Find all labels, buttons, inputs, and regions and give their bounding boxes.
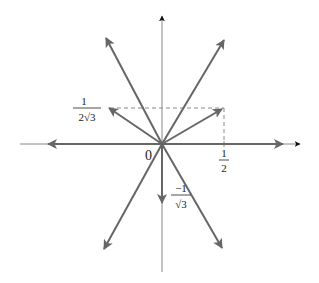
down-label-numerator: −1 — [175, 182, 187, 194]
down-label-denominator: √3 — [175, 198, 187, 210]
vector-short-upper-left — [109, 108, 162, 144]
y-value-label: 1 2√3 — [73, 95, 101, 123]
y-label-denominator: 2√3 — [78, 111, 96, 123]
vector-long-lower-right — [162, 144, 222, 248]
vectors — [48, 38, 283, 249]
origin-label: 0 — [145, 148, 152, 163]
down-vector-label: −1 √3 — [171, 182, 191, 210]
dashed-projection-lines — [110, 108, 224, 144]
vector-long-upper-right — [162, 40, 224, 144]
x-label-denominator: 2 — [221, 162, 227, 174]
vector-long-lower-left — [104, 144, 162, 249]
x-value-label: 1 2 — [219, 147, 229, 174]
y-label-numerator: 1 — [81, 95, 87, 107]
vector-short-upper-right — [162, 109, 222, 144]
x-label-numerator: 1 — [221, 147, 227, 159]
vector-long-upper-left — [106, 38, 162, 144]
vector-diagram: 0 1 2√3 1 2 −1 √3 — [0, 0, 319, 283]
